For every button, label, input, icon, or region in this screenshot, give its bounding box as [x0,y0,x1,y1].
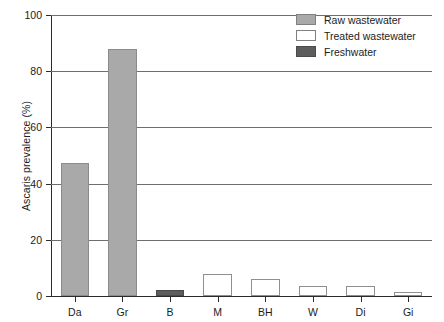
legend-item-fresh: Freshwater [296,45,416,58]
bar-di [346,286,375,296]
x-tick-mark [408,297,409,302]
bar-b [156,290,185,296]
y-tick-label: 80 [30,65,42,77]
x-tick-label-b: B [167,306,174,318]
legend-label: Raw wastewater [324,14,401,26]
y-tick-mark [46,240,51,241]
legend-swatch-fresh [296,46,316,57]
y-tick-mark [46,71,51,72]
x-tick-mark [361,297,362,302]
y-tick-label: 0 [36,290,42,302]
legend-label: Treated wastewater [324,30,416,42]
y-tick-mark [46,127,51,128]
legend-swatch-raw [296,14,316,25]
x-tick-label-w: W [308,306,318,318]
bar-da [61,163,90,296]
x-tick-mark [218,297,219,302]
bar-chart-figure: Ascaris prevalence (%) 020406080100 DaGr… [0,0,444,322]
bar-gi [394,292,423,296]
y-tick-mark [46,296,51,297]
x-tick-mark [313,297,314,302]
x-tick-mark [122,297,123,302]
x-tick-label-gi: Gi [403,306,414,318]
y-tick-mark [46,184,51,185]
bar-gr [108,49,137,296]
x-tick-mark [265,297,266,302]
x-tick-label-da: Da [68,306,81,318]
x-tick-mark [75,297,76,302]
legend: Raw wastewaterTreated wastewaterFreshwat… [296,13,416,58]
y-axis-line [51,15,52,297]
y-tick-mark [46,15,51,16]
x-tick-label-m: M [213,306,222,318]
x-tick-label-gr: Gr [117,306,129,318]
legend-label: Freshwater [324,46,377,58]
bar-bh [251,279,280,296]
bar-m [203,274,232,296]
x-axis-line [51,296,432,297]
y-tick-label: 40 [30,178,42,190]
y-tick-label: 20 [30,234,42,246]
x-tick-mark [170,297,171,302]
bar-w [299,286,328,296]
y-tick-label: 100 [24,9,42,21]
legend-swatch-treated [296,30,316,41]
legend-item-treated: Treated wastewater [296,29,416,42]
y-tick-label: 60 [30,121,42,133]
x-tick-label-di: Di [356,306,366,318]
x-tick-label-bh: BH [258,306,273,318]
legend-item-raw: Raw wastewater [296,13,416,26]
